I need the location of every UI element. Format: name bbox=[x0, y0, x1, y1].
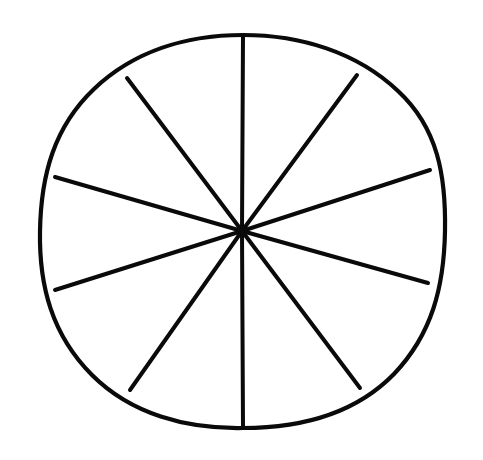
center-point bbox=[237, 226, 247, 236]
spoke-bottom bbox=[242, 231, 243, 428]
pie-fraction-diagram: Circle divided into ten equal sectors bbox=[0, 0, 483, 460]
spoke-top bbox=[242, 35, 243, 231]
